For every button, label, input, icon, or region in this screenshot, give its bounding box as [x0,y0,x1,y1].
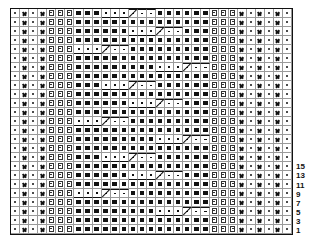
dot-stitch-cell [29,18,38,27]
knit-stitch-cell [201,153,210,162]
cable-stitch-cell [111,45,120,54]
dot-stitch-cell [247,27,256,36]
knit-stitch-cell [192,117,201,126]
knit-stitch-cell [102,27,111,36]
cross-stitch-cell [274,117,283,126]
knit-stitch-cell [84,171,93,180]
cable-stitch-cell [183,135,192,144]
cable-stitch-cell [84,189,93,198]
cross-stitch-cell [20,54,29,63]
knit-stitch-cell [84,180,93,189]
box-stitch-cell [47,189,56,198]
knit-stitch-cell [201,72,210,81]
dot-stitch-cell [11,99,20,108]
knit-stitch-cell [165,90,174,99]
cross-stitch-cell [238,36,247,45]
dot-stitch-cell [265,27,274,36]
box-stitch-cell [219,180,228,189]
knit-stitch-cell [201,216,210,225]
cross-stitch-cell [238,207,247,216]
knit-stitch-cell [192,81,201,90]
box-stitch-cell [210,18,219,27]
knit-stitch-cell [183,36,192,45]
dot-stitch-cell [29,117,38,126]
dot-stitch-cell [283,45,292,54]
cross-stitch-cell [274,81,283,90]
cross-stitch-cell [256,27,265,36]
cross-stitch-cell [238,144,247,153]
cross-stitch-cell [274,135,283,144]
row-label: 15 [296,162,305,171]
knit-stitch-cell [174,198,183,207]
knit-stitch-cell [192,225,201,234]
dot-stitch-cell [265,135,274,144]
box-stitch-cell [56,54,65,63]
knit-stitch-cell [192,198,201,207]
dot-stitch-cell [11,126,20,135]
dot-stitch-cell [11,63,20,72]
box-stitch-cell [229,189,238,198]
box-stitch-cell [65,90,74,99]
knit-stitch-cell [192,99,201,108]
cross-stitch-cell [20,171,29,180]
knit-stitch-cell [129,126,138,135]
dot-stitch-cell [265,180,274,189]
cross-stitch-cell [38,27,47,36]
dot-stitch-cell [247,207,256,216]
knit-stitch-cell [174,45,183,54]
cross-stitch-cell [238,9,247,18]
cross-stitch-cell [20,153,29,162]
row-label: 13 [296,171,305,180]
cross-stitch-cell [38,144,47,153]
cable-stitch-cell [74,189,83,198]
box-stitch-cell [229,54,238,63]
box-stitch-cell [47,126,56,135]
box-stitch-cell [65,108,74,117]
dot-stitch-cell [247,18,256,27]
knit-stitch-cell [156,225,165,234]
knit-stitch-cell [120,162,129,171]
knit-stitch-cell [174,126,183,135]
knit-stitch-cell [120,198,129,207]
box-stitch-cell [210,153,219,162]
box-stitch-cell [47,207,56,216]
cable-stitch-cell [138,99,147,108]
dot-stitch-cell [29,216,38,225]
row-label: 9 [296,190,300,199]
knit-stitch-cell [156,45,165,54]
box-stitch-cell [229,216,238,225]
knit-stitch-cell [183,117,192,126]
box-stitch-cell [56,81,65,90]
knit-stitch-cell [84,54,93,63]
cross-stitch-cell [238,99,247,108]
cross-stitch-cell [38,45,47,54]
knit-stitch-cell [156,117,165,126]
knit-stitch-cell [84,72,93,81]
cable-stitch-cell [156,63,165,72]
knit-stitch-cell [120,207,129,216]
dot-stitch-cell [11,81,20,90]
cable-stitch-cell [120,153,129,162]
box-stitch-cell [65,144,74,153]
cross-stitch-cell [20,144,29,153]
box-stitch-cell [229,27,238,36]
box-stitch-cell [219,36,228,45]
cross-stitch-cell [256,108,265,117]
dot-stitch-cell [265,81,274,90]
cable-stitch-cell [156,171,165,180]
dot-stitch-cell [11,225,20,234]
cable-stitch-cell [165,207,174,216]
cross-stitch-cell [256,162,265,171]
dot-stitch-cell [283,72,292,81]
knit-stitch-cell [129,45,138,54]
dot-stitch-cell [29,108,38,117]
knit-stitch-cell [138,117,147,126]
box-stitch-cell [56,90,65,99]
knit-stitch-cell [74,99,83,108]
knit-stitch-cell [102,36,111,45]
knit-stitch-cell [129,198,138,207]
box-stitch-cell [47,171,56,180]
knit-stitch-cell [192,54,201,63]
dot-stitch-cell [29,54,38,63]
cable-stitch-cell [129,27,138,36]
